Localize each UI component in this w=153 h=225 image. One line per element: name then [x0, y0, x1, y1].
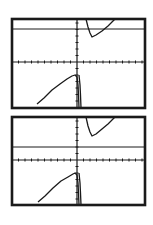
graph-canvas-bottom [0, 0, 153, 225]
calculator-graph-bottom [0, 0, 153, 225]
plot-area [12, 117, 145, 205]
plot-group [12, 117, 145, 205]
function-curve-lower-left-branch [38, 173, 79, 205]
function-curve-upper-right-branch [86, 117, 115, 136]
